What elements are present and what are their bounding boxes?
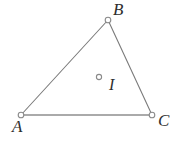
figure-canvas <box>0 0 178 145</box>
interior-point-marker-I[interactable] <box>96 74 101 79</box>
geometry-figure: A B C I <box>0 0 178 145</box>
point-label-I: I <box>109 77 114 93</box>
edge-AB <box>21 20 108 115</box>
edge-BC <box>108 20 152 115</box>
vertex-marker-B[interactable] <box>105 17 111 23</box>
point-label-C: C <box>158 112 169 129</box>
point-label-B: B <box>113 1 123 18</box>
point-label-A: A <box>12 118 22 135</box>
vertex-marker-C[interactable] <box>149 112 155 118</box>
